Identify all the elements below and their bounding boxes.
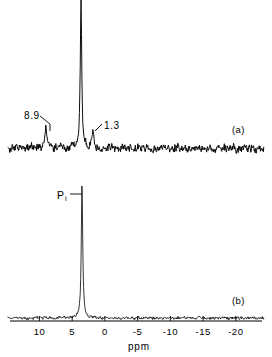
axis-tick-label: 5 xyxy=(69,326,75,337)
panel-tag-a: (a) xyxy=(232,125,245,135)
peak-label-1-3: 1.3 xyxy=(104,121,120,131)
panel-tag-b: (b) xyxy=(232,296,245,306)
axis-tick-label: -20 xyxy=(228,326,243,337)
spectrum-trace-path-b xyxy=(8,186,264,320)
peak-label-8-9: 8.9 xyxy=(24,111,40,121)
axis-tick-label: -10 xyxy=(163,326,178,337)
leader-line xyxy=(40,116,50,131)
axis-tick-label: 0 xyxy=(102,326,108,337)
spectrum-trace-path-a xyxy=(8,0,264,153)
leader-line xyxy=(95,124,102,131)
axis-tick-label: 10 xyxy=(34,326,46,337)
axis-tick-label: -5 xyxy=(133,326,142,337)
nmr-spectrum-figure: 8.9 1.3 Pi (a) (b) 1050-5-10-15-20 ppm xyxy=(0,0,272,357)
spectrum-trace-panel-a xyxy=(8,0,264,153)
spectrum-trace-panel-b xyxy=(8,186,264,320)
pi-label-main: P xyxy=(57,189,65,201)
axis-tick-label: -15 xyxy=(195,326,210,337)
annotation-leader-lines xyxy=(40,116,102,194)
axis-title-ppm: ppm xyxy=(128,341,150,352)
peak-label-pi: Pi xyxy=(57,190,67,201)
